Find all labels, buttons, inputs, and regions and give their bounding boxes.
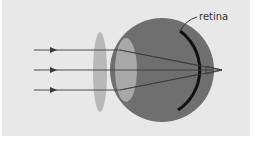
arrow-icon	[50, 47, 57, 53]
corrective-lens	[93, 32, 107, 112]
arrow-icon	[50, 87, 57, 93]
ray-arrowheads	[50, 47, 57, 93]
eye-diagram: retina	[0, 0, 253, 145]
arrow-icon	[50, 67, 57, 73]
retina-label: retina	[199, 11, 228, 22]
